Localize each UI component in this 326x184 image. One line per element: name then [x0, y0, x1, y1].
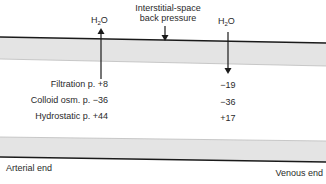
- capillary-diagram: [0, 0, 326, 184]
- venous-filtration-pressure: −19: [213, 80, 243, 90]
- left-water-label: H2O: [91, 15, 108, 28]
- back-pressure-label: Interstitial-space back pressure: [130, 3, 206, 23]
- right-water-label: H2O: [218, 16, 235, 29]
- back-pressure-line1: Interstitial-space: [130, 3, 206, 13]
- arterial-colloid-pressure: Colloid osm. p. −36: [20, 95, 108, 105]
- water-o: O: [101, 15, 108, 25]
- down-arrow-icon: [162, 26, 169, 41]
- arterial-hydrostatic-pressure: Hydrostatic p. +44: [20, 111, 108, 121]
- venous-colloid-pressure: −36: [213, 97, 243, 107]
- back-pressure-line2: back pressure: [130, 13, 206, 23]
- arterial-end-label: Arterial end: [6, 163, 52, 173]
- upper-capillary-wall: [0, 37, 326, 66]
- venous-hydrostatic-pressure: +17: [213, 113, 243, 123]
- venous-end-label: Venous end: [246, 168, 323, 178]
- water-o: O: [228, 16, 235, 26]
- arterial-filtration-pressure: Filtration p. +8: [20, 79, 108, 89]
